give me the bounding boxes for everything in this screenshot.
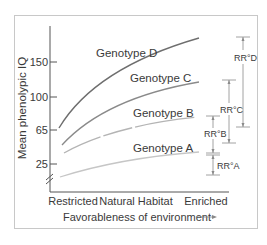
- reaction-range-chart: 150 100 65 25 Mean phenolypic IQ Restric…: [0, 0, 267, 245]
- x-tick-enriched: Enriched: [184, 195, 227, 207]
- x-tick-natural-habitat: Natural Habitat: [99, 195, 172, 207]
- x-tick-restricted: Restricted: [48, 195, 98, 207]
- label-genotype-a: Genotype A: [133, 142, 193, 154]
- y-tick-65: 65: [36, 124, 48, 136]
- label-genotype-b: Genotype B: [133, 107, 194, 119]
- y-tick-100: 100: [30, 91, 48, 103]
- x-axis-label: Favorableness of environment: [63, 211, 211, 223]
- y-tick-25: 25: [36, 158, 48, 170]
- range-label-b: RR°B: [204, 129, 227, 139]
- label-genotype-c: Genotype C: [130, 72, 191, 84]
- y-tick-150: 150: [30, 56, 48, 68]
- label-genotype-d: Genotype D: [96, 47, 157, 59]
- y-axis-label: Mean phenolypic IQ: [16, 57, 28, 159]
- range-label-d: RR°D: [234, 53, 258, 63]
- x-tick-labels: Restricted Natural Habitat Enriched: [48, 195, 227, 207]
- range-label-a: RR°A: [217, 161, 240, 171]
- range-label-c: RR°C: [220, 105, 244, 115]
